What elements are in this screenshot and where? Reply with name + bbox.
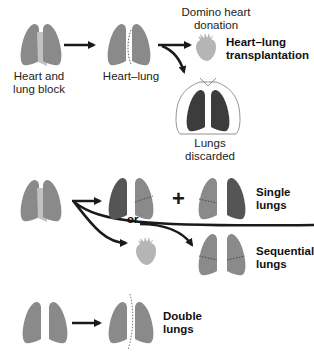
heart-lung-illustration: [108, 24, 151, 65]
label-line: Single: [256, 186, 291, 199]
label-line: Heart and: [4, 70, 74, 83]
label-line: Heart–lung: [226, 36, 309, 49]
heart-icon: [136, 237, 156, 265]
heart-lung-label: Heart–lung: [96, 70, 166, 83]
sequential-lungs-illustration: [199, 234, 246, 275]
label-line: lung block: [4, 83, 74, 96]
label-line: lungs: [163, 323, 202, 336]
arrow-curved-icon: [162, 46, 184, 72]
lungs-discarded-label: Lungs discarded: [170, 137, 250, 163]
sequential-lungs-label: Sequential lungs: [256, 245, 314, 271]
label-line: lungs: [256, 258, 314, 271]
double-lungs-label: Double lungs: [163, 310, 202, 336]
single-lungs-label: Single lungs: [256, 186, 291, 212]
plus-label: +: [172, 188, 185, 210]
label-line: Double: [163, 310, 202, 323]
label-line: lungs: [256, 199, 291, 212]
heart-lung-block-label: Heart and lung block: [4, 70, 74, 96]
or-label: or: [127, 213, 139, 226]
double-lungs-illustration: [109, 294, 154, 350]
heart-lung-block-illustration: [21, 24, 62, 66]
donor-lungs-illustration: [23, 302, 68, 343]
label-line: Sequential: [256, 245, 314, 258]
domino-heart-label: Domino heart donation: [176, 6, 256, 32]
heart-lung-transplantation-label: Heart–lung transplantation: [226, 36, 309, 62]
label-line: Domino heart: [176, 6, 256, 19]
label-line: donation: [176, 19, 256, 32]
single-lungs-illustration: [199, 178, 246, 219]
domino-heart-icon: [196, 33, 216, 61]
single-lung-dark-icon: [109, 178, 127, 219]
discarded-lungs-illustration: [176, 78, 240, 134]
label-line: transplantation: [226, 49, 309, 62]
donor-heart-lung-block-illustration: [21, 180, 62, 222]
